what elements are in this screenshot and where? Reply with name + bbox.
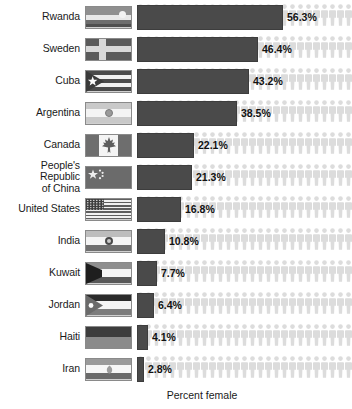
- person-icon: [193, 292, 200, 314]
- jordan-flag: [85, 294, 132, 317]
- person-icon: [313, 164, 320, 186]
- person-icon: [265, 356, 272, 378]
- person-icon: [185, 260, 192, 282]
- person-icon: [313, 260, 320, 282]
- person-icon: [289, 228, 296, 250]
- bar-track: 43.2%: [137, 65, 344, 97]
- person-icon: [265, 196, 272, 218]
- cuba-flag: [85, 70, 132, 93]
- person-icon: [345, 36, 352, 58]
- person-icon: [257, 324, 264, 346]
- person-icon: [257, 196, 264, 218]
- china-flag: [85, 166, 132, 189]
- person-icon: [241, 196, 248, 218]
- person-icon: [273, 228, 280, 250]
- person-icon: [241, 164, 248, 186]
- person-icon: [345, 196, 352, 218]
- person-icon: [241, 292, 248, 314]
- person-icon: [313, 324, 320, 346]
- person-icon: [249, 292, 256, 314]
- person-icon: [281, 292, 288, 314]
- value-label: 21.3%: [192, 161, 226, 193]
- chart-row: Cuba: [0, 65, 344, 97]
- person-icon: [305, 68, 312, 90]
- person-icon: [313, 356, 320, 378]
- person-icon: [265, 228, 272, 250]
- person-icon: [337, 228, 344, 250]
- person-icon: [265, 164, 272, 186]
- person-icon: [225, 228, 232, 250]
- person-icon: [177, 324, 184, 346]
- sweden-flag: [85, 38, 132, 61]
- country-label: India: [0, 235, 84, 247]
- person-icon: [337, 132, 344, 154]
- person-icon: [249, 164, 256, 186]
- person-icon: [337, 36, 344, 58]
- person-icon: [305, 100, 312, 122]
- person-icon: [281, 356, 288, 378]
- chart-row: Argentina: [0, 97, 344, 129]
- person-icon: [321, 356, 328, 378]
- person-icon: [249, 132, 256, 154]
- person-icon: [297, 36, 304, 58]
- chart-row: Kuwait: [0, 257, 344, 289]
- person-icon: [265, 324, 272, 346]
- person-icon: [289, 132, 296, 154]
- person-icon: [329, 356, 336, 378]
- person-icon: [281, 132, 288, 154]
- person-icon: [337, 4, 344, 26]
- person-icon: [345, 292, 352, 314]
- person-icon: [217, 196, 224, 218]
- value-label: 7.7%: [157, 257, 185, 289]
- person-icon: [233, 292, 240, 314]
- value-bar: [137, 197, 181, 222]
- person-icon: [265, 292, 272, 314]
- person-icon: [289, 68, 296, 90]
- person-icon: [329, 68, 336, 90]
- country-label: Jordan: [0, 299, 84, 311]
- person-icon: [209, 356, 216, 378]
- person-icon: [329, 100, 336, 122]
- country-label: People's Republic of China: [0, 160, 84, 195]
- person-icon: [345, 132, 352, 154]
- person-icon: [289, 100, 296, 122]
- person-icon: [289, 324, 296, 346]
- person-icon: [321, 260, 328, 282]
- country-label: Iran: [0, 363, 84, 375]
- person-icon: [297, 196, 304, 218]
- person-icon: [297, 356, 304, 378]
- person-icon: [329, 228, 336, 250]
- person-icon: [225, 164, 232, 186]
- person-icon: [321, 68, 328, 90]
- person-icon: [345, 228, 352, 250]
- argentina-flag: [85, 102, 132, 125]
- person-icon: [289, 260, 296, 282]
- person-icon: [289, 164, 296, 186]
- person-icon: [321, 132, 328, 154]
- person-icon: [217, 356, 224, 378]
- person-icon: [273, 100, 280, 122]
- person-icon: [305, 260, 312, 282]
- person-icon: [305, 132, 312, 154]
- person-icon: [233, 196, 240, 218]
- person-icon: [297, 68, 304, 90]
- bar-track: 56.3%: [137, 1, 344, 33]
- person-icon: [217, 324, 224, 346]
- person-icon: [249, 324, 256, 346]
- kuwait-flag: [85, 262, 132, 285]
- value-label: 22.1%: [194, 129, 228, 161]
- bar-track: 6.4%: [137, 289, 344, 321]
- country-label: Canada: [0, 139, 84, 151]
- value-bar: [137, 325, 148, 350]
- person-icon: [337, 292, 344, 314]
- person-icon: [281, 164, 288, 186]
- person-icon: [217, 228, 224, 250]
- person-icon: [345, 164, 352, 186]
- person-icon: [337, 100, 344, 122]
- value-bar: [137, 5, 283, 30]
- person-icon: [305, 292, 312, 314]
- bar-track: 7.7%: [137, 257, 344, 289]
- person-icon: [321, 100, 328, 122]
- country-label: United States: [0, 203, 84, 215]
- person-icon: [273, 132, 280, 154]
